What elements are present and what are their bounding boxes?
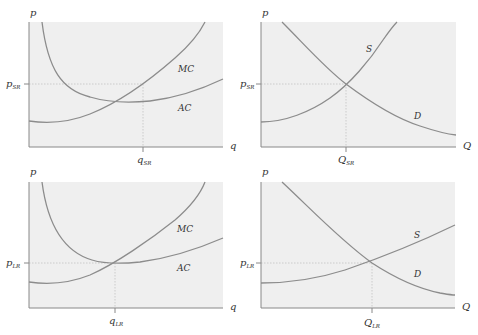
- supply-label: S: [414, 230, 420, 240]
- price-label: pLR: [240, 257, 254, 269]
- y-axis-label: p: [262, 7, 269, 18]
- quantity-label: qLR: [109, 315, 123, 327]
- supply-label: S: [366, 44, 372, 54]
- panel-firm-long-run: p q MC AC pLR qLR: [6, 166, 236, 327]
- x-axis-label: q: [230, 140, 236, 151]
- y-axis-label: p: [30, 166, 37, 177]
- panel-market-long-run: p Q S D pLR QLR: [240, 166, 470, 329]
- diagram-canvas: p q MC AC pSR qSR p Q S D pSR QSR: [0, 0, 478, 335]
- x-axis-label: Q: [463, 140, 471, 151]
- x-axis-label: q: [230, 301, 236, 312]
- quantity-label: QSR: [338, 154, 354, 166]
- demand-label: D: [413, 111, 421, 121]
- x-axis-label: Q: [462, 301, 470, 312]
- price-label: pLR: [6, 257, 20, 269]
- mc-label: MC: [177, 64, 194, 74]
- quantity-label: qSR: [137, 154, 151, 166]
- plot-background: [29, 22, 223, 147]
- ac-label: AC: [177, 103, 191, 113]
- panel-firm-short-run: p q MC AC pSR qSR: [6, 7, 236, 166]
- price-label: pSR: [240, 78, 254, 90]
- demand-label: D: [413, 269, 421, 279]
- y-axis-label: p: [30, 7, 37, 18]
- ac-label: AC: [176, 263, 190, 273]
- y-axis-label: p: [262, 166, 269, 177]
- quantity-label: QLR: [364, 317, 380, 329]
- price-label: pSR: [6, 78, 20, 90]
- panel-market-short-run: p Q S D pSR QSR: [240, 7, 471, 166]
- mc-label: MC: [176, 224, 193, 234]
